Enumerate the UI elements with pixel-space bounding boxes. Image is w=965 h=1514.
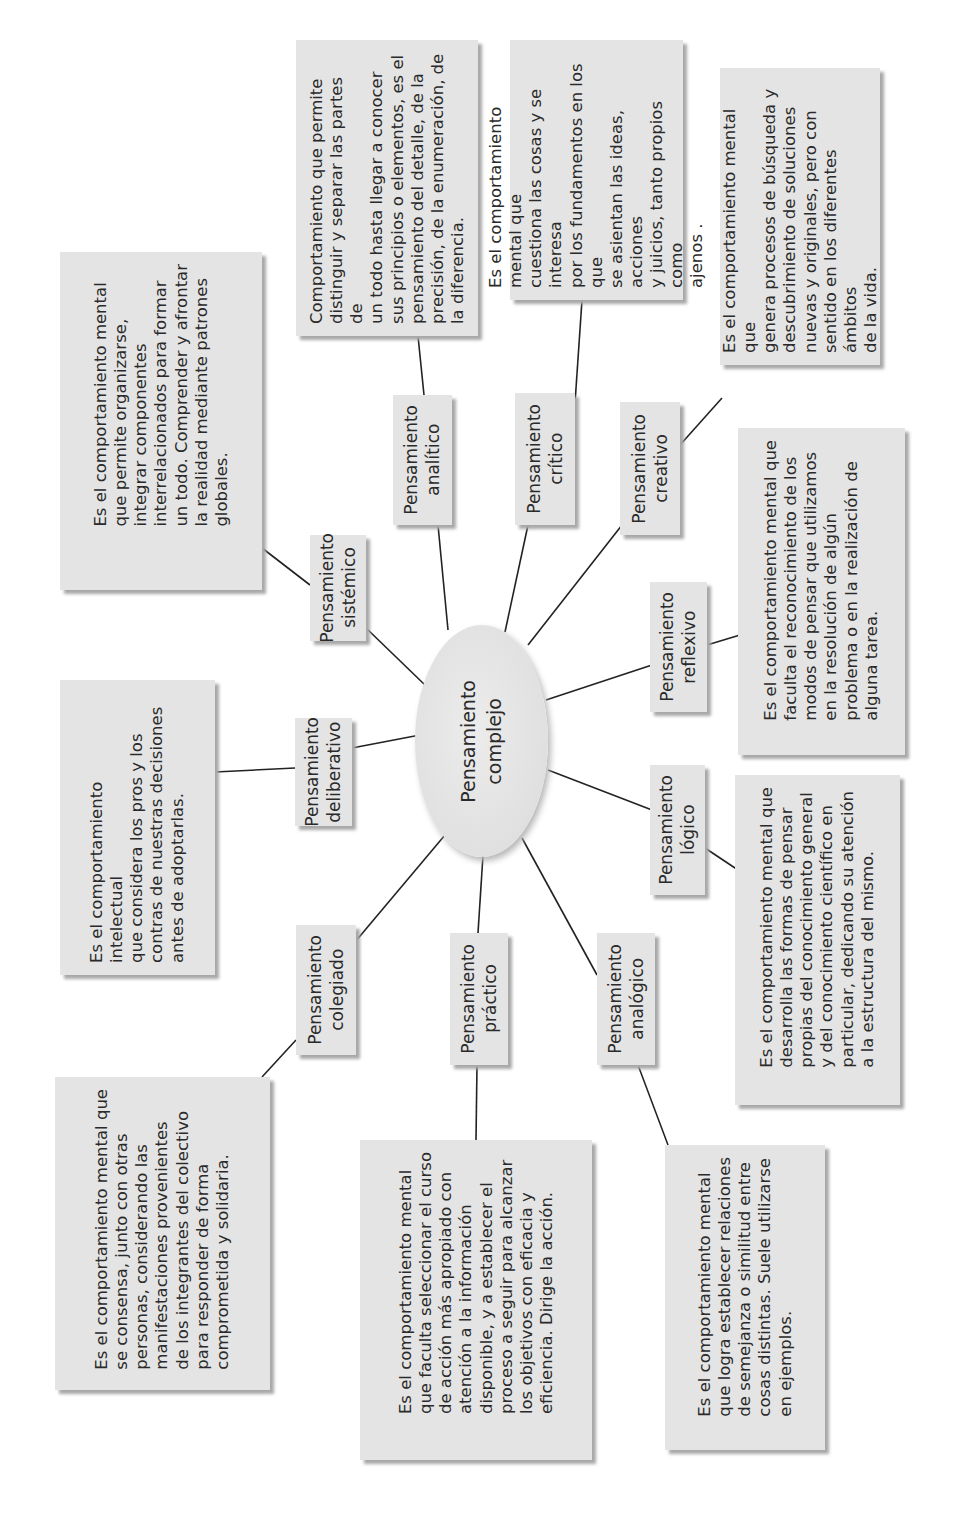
- definition-text: Es el comportamiento mental que cuestion…: [486, 52, 707, 288]
- node-label: Pensamiento sistémico: [316, 533, 360, 643]
- node-practico: Pensamiento práctico: [450, 933, 508, 1065]
- definition-text: Es el comportamiento mental que se conse…: [92, 1089, 233, 1370]
- node-label: Pensamiento analógico: [604, 944, 648, 1054]
- link-center-reflexivo: [546, 665, 652, 700]
- central-concept-label: Pensamiento complejo: [456, 680, 507, 803]
- link-center-deliberativo: [352, 735, 420, 748]
- definition-text: Comportamiento que permite distinguir y …: [307, 52, 468, 324]
- link-reflexivo-def: [707, 635, 740, 645]
- link-deliberativo-def: [215, 768, 295, 772]
- link-logico-def: [705, 848, 738, 870]
- definition-critico: Es el comportamiento mental que cuestion…: [510, 40, 683, 300]
- definition-text: Es el comportamiento mental que faculta …: [396, 1152, 557, 1414]
- definition-text: Es el comportamiento mental que logra es…: [695, 1157, 796, 1417]
- node-analogico: Pensamiento analógico: [597, 933, 655, 1065]
- link-center-logico: [548, 770, 652, 810]
- node-label: Pensamiento creativo: [628, 414, 672, 524]
- node-sistemico: Pensamiento sistémico: [310, 535, 366, 641]
- link-practico-def: [476, 1065, 477, 1140]
- node-label: Pensamiento práctico: [457, 944, 501, 1054]
- link-center-colegiado: [355, 835, 445, 942]
- link-center-creativo: [528, 525, 622, 645]
- link-center-critico: [505, 525, 528, 632]
- node-label: Pensamiento reflexivo: [656, 592, 700, 702]
- definition-colegiado: Es el comportamiento mental que se conse…: [55, 1077, 270, 1390]
- node-logico: Pensamiento lógico: [650, 765, 705, 895]
- node-label: Pensamiento deliberativo: [301, 717, 345, 827]
- node-critico: Pensamiento crítico: [515, 393, 575, 525]
- mind-map: Pensamiento complejo Pensamiento sistémi…: [0, 0, 965, 1514]
- link-center-analogico: [522, 838, 597, 975]
- link-creativo-def: [680, 398, 722, 445]
- definition-sistemico: Es el comportamiento mental que permite …: [60, 252, 262, 590]
- node-reflexivo: Pensamiento reflexivo: [650, 582, 707, 712]
- definition-analogico: Es el comportamiento mental que logra es…: [665, 1145, 825, 1450]
- link-sistemico-def: [262, 548, 310, 585]
- node-deliberativo: Pensamiento deliberativo: [295, 718, 352, 826]
- link-center-practico: [478, 855, 483, 933]
- definition-reflexivo: Es el comportamiento mental que faculta …: [738, 428, 905, 755]
- definition-text: Es el comportamiento intelectual que con…: [87, 692, 188, 963]
- link-colegiado-def: [262, 1040, 296, 1077]
- node-label: Pensamiento analítico: [400, 405, 444, 515]
- definition-text: Es el comportamiento mental que faculta …: [761, 440, 882, 721]
- definition-practico: Es el comportamiento mental que faculta …: [360, 1140, 592, 1460]
- node-label: Pensamiento crítico: [523, 404, 567, 514]
- link-critico-def: [575, 300, 582, 403]
- definition-logico: Es el comportamiento mental que desarrol…: [735, 775, 900, 1105]
- central-concept: Pensamiento complejo: [415, 625, 548, 857]
- link-center-analitico: [438, 525, 448, 630]
- link-center-sistemico: [366, 628, 425, 685]
- node-creativo: Pensamiento creativo: [620, 402, 680, 535]
- node-analitico: Pensamiento analítico: [393, 395, 452, 525]
- definition-text: Es el comportamiento mental que permite …: [91, 264, 232, 527]
- node-label: Pensamiento lógico: [655, 775, 699, 885]
- definition-creativo: Es el comportamiento mental que genera p…: [720, 68, 880, 365]
- definition-text: Es el comportamiento mental que desarrol…: [757, 787, 878, 1068]
- definition-analitico: Comportamiento que permite distinguir y …: [296, 40, 478, 336]
- link-analitico-def: [418, 336, 424, 395]
- definition-deliberativo: Es el comportamiento intelectual que con…: [60, 680, 215, 975]
- node-label: Pensamiento colegiado: [304, 935, 348, 1045]
- definition-text: Es el comportamiento mental que genera p…: [720, 80, 881, 353]
- node-colegiado: Pensamiento colegiado: [296, 925, 356, 1055]
- link-analogico-def: [638, 1065, 668, 1145]
